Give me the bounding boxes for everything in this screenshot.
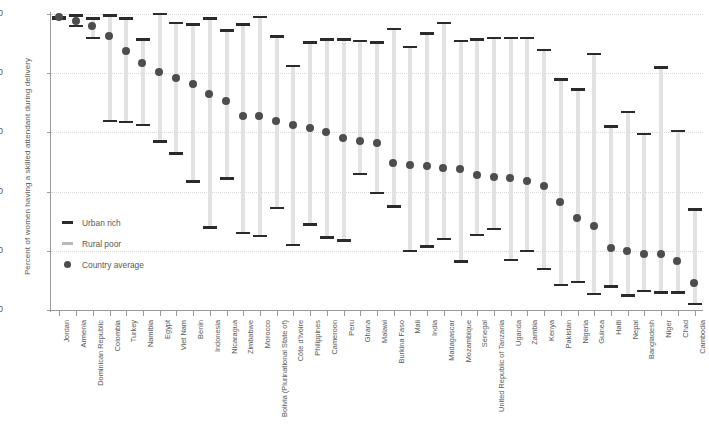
range-column[interactable] (220, 14, 234, 310)
range-bar (358, 41, 362, 174)
range-column[interactable] (203, 14, 217, 310)
range-column[interactable] (270, 14, 284, 310)
range-column[interactable] (604, 14, 618, 310)
rural-poor-marker (621, 294, 635, 296)
x-tick-label: India (430, 320, 439, 336)
x-tick-mark (594, 311, 595, 316)
urban-rich-marker (454, 40, 468, 42)
rural-poor-marker (554, 284, 568, 286)
range-bar (442, 23, 446, 239)
country-average-dot (573, 214, 581, 222)
legend-marker-dash (60, 221, 74, 223)
range-bar (241, 24, 245, 233)
range-column[interactable] (437, 14, 451, 310)
x-tick-mark (527, 311, 528, 316)
x-tick-label: Peru (347, 320, 356, 336)
range-column[interactable] (554, 14, 568, 310)
range-column[interactable] (504, 14, 518, 310)
range-column[interactable] (186, 14, 200, 310)
range-column[interactable] (169, 14, 183, 310)
range-column[interactable] (654, 14, 668, 310)
rural-poor-marker (587, 293, 601, 295)
range-column[interactable] (487, 14, 501, 310)
range-column[interactable] (520, 14, 534, 310)
rural-poor-marker (203, 226, 217, 228)
rural-poor-marker (303, 223, 317, 225)
legend-item-country_average[interactable]: Country average (60, 254, 144, 275)
x-tick-label: Pakistan (564, 320, 573, 348)
range-column[interactable] (286, 14, 300, 310)
rural-poor-marker (537, 268, 551, 270)
range-column[interactable] (303, 14, 317, 310)
range-column[interactable] (454, 14, 468, 310)
range-column[interactable] (370, 14, 384, 310)
country-average-dot (55, 13, 63, 21)
y-tick-label: 20 (0, 245, 3, 255)
country-average-dot (189, 80, 197, 88)
urban-rich-marker (320, 38, 334, 40)
range-column[interactable] (587, 14, 601, 310)
x-tick-label: Viet Nam (179, 320, 188, 350)
x-tick-label: Namibia (146, 320, 155, 347)
plot-area (51, 14, 703, 310)
range-bar (408, 47, 412, 251)
legend-dash-icon (62, 221, 73, 223)
x-tick-label: United Republic of Tanzania (497, 320, 506, 412)
rural-poor-marker (520, 250, 534, 252)
x-tick-mark (327, 311, 328, 316)
range-bar (392, 29, 396, 207)
urban-rich-marker (621, 111, 635, 113)
urban-rich-marker (671, 130, 685, 132)
range-column[interactable] (253, 14, 267, 310)
x-tick-mark (494, 311, 495, 316)
x-tick-label: Mali (413, 320, 422, 334)
range-column[interactable] (688, 14, 702, 310)
x-tick-label: Burkina Faso (397, 320, 406, 364)
urban-rich-marker (654, 66, 668, 68)
legend-dash-icon (62, 242, 73, 244)
rural-poor-marker (420, 245, 434, 247)
urban-rich-marker (537, 49, 551, 51)
country-average-dot (389, 159, 397, 167)
x-tick-label: Colombia (113, 320, 122, 351)
range-column[interactable] (537, 14, 551, 310)
legend-marker-dash (60, 242, 74, 244)
x-tick-mark (678, 311, 679, 316)
range-column[interactable] (621, 14, 635, 310)
urban-rich-marker (387, 28, 401, 30)
range-column[interactable] (236, 14, 250, 310)
range-column[interactable] (671, 14, 685, 310)
range-column[interactable] (320, 14, 334, 310)
legend-item-rural_poor[interactable]: Rural poor (60, 233, 144, 254)
range-column[interactable] (153, 14, 167, 310)
legend-item-urban_rich[interactable]: Urban rich (60, 212, 144, 233)
x-tick-label: Haiti (614, 320, 623, 335)
x-tick-mark (394, 311, 395, 316)
x-tick-label: Ghana (363, 320, 372, 342)
country-average-dot (322, 128, 330, 136)
range-column[interactable] (403, 14, 417, 310)
x-tick-label: Nicaragua (230, 320, 239, 354)
legend: Urban richRural poorCountry average (60, 212, 144, 275)
x-tick-mark (176, 311, 177, 316)
range-column[interactable] (470, 14, 484, 310)
country-average-dot (239, 112, 247, 120)
range-bar (158, 14, 162, 141)
country-average-dot (105, 32, 113, 40)
range-column[interactable] (337, 14, 351, 310)
range-bar (425, 33, 429, 246)
range-column[interactable] (637, 14, 651, 310)
x-tick-label: Mozambique (464, 320, 473, 362)
range-column[interactable] (353, 14, 367, 310)
x-tick-mark (461, 311, 462, 316)
x-tick-mark (695, 311, 696, 316)
rural-poor-marker (571, 281, 585, 283)
country-average-dot (456, 165, 464, 173)
x-tick-mark (561, 311, 562, 316)
range-column[interactable] (387, 14, 401, 310)
range-column[interactable] (571, 14, 585, 310)
rural-poor-marker (654, 291, 668, 293)
range-column[interactable] (420, 14, 434, 310)
urban-rich-marker (637, 133, 651, 135)
legend-marker-dot (60, 261, 74, 268)
